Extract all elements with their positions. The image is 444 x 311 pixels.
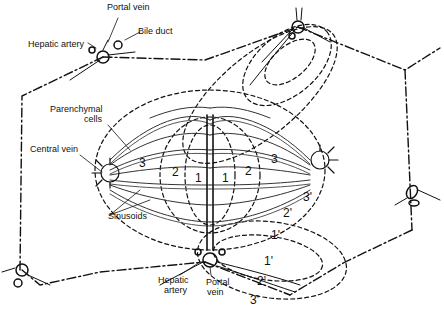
- zone-1prime-lower: 1': [264, 255, 273, 267]
- zone-3prime-lower: 3': [250, 294, 259, 306]
- zone-3-right: 3: [271, 153, 278, 165]
- zone-1-right: 1: [222, 172, 229, 184]
- zone-3-left: 3: [139, 157, 146, 169]
- portal-triad-right: [395, 183, 440, 206]
- label-parenchymal-cells-line2: cells: [84, 114, 102, 124]
- label-hepatic-artery-bottom-line1: Hepatic: [158, 275, 189, 285]
- lobule-boundary: [20, 27, 440, 295]
- label-parenchymal-cells-line1: Parenchymal: [50, 104, 103, 114]
- label-hepatic-artery-bottom-line2: artery: [164, 285, 187, 295]
- zone-2-right: 2: [245, 165, 252, 177]
- zone-2-left: 2: [172, 166, 179, 178]
- label-bile-duct: Bile duct: [138, 26, 173, 36]
- portal-triad-left: [2, 264, 50, 287]
- label-central-vein: Central vein: [30, 144, 78, 154]
- label-portal-vein-bottom-line2: vein: [207, 287, 224, 297]
- zone-1prime-upper: 1': [271, 229, 280, 241]
- label-hepatic-artery-top: Hepatic artery: [28, 39, 84, 49]
- zone-1-left: 1: [195, 172, 202, 184]
- liver-acinus-diagram: Portal vein Hepatic artery Bile duct Par…: [0, 0, 444, 311]
- label-sinusoids: Sinusoids: [108, 211, 147, 221]
- label-portal-vein-bottom-line1: Portal: [206, 277, 230, 287]
- zone-2prime-lower: 2': [257, 275, 266, 287]
- zone-3prime-upper: 3': [303, 191, 312, 203]
- label-portal-vein-top: Portal vein: [107, 2, 150, 12]
- zone-2prime-upper: 2': [283, 207, 292, 219]
